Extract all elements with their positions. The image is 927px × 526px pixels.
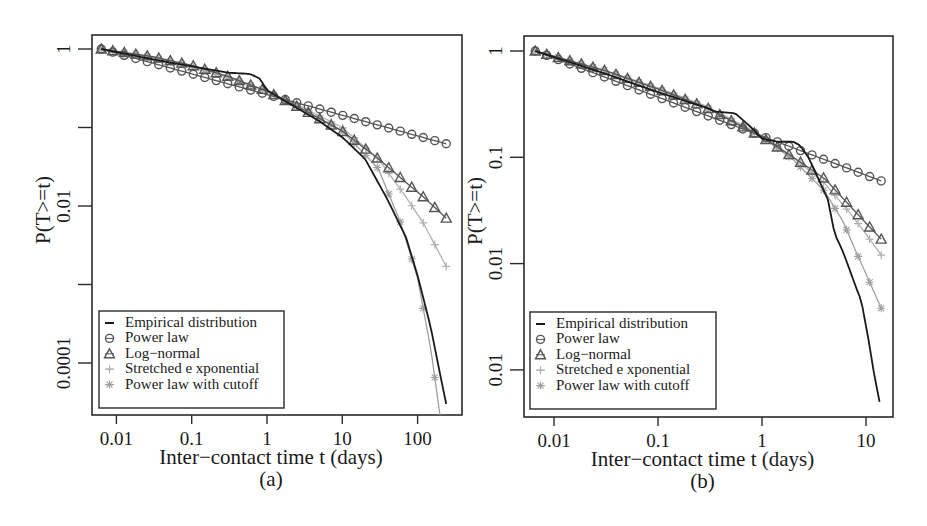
plus-marker-icon bbox=[419, 219, 427, 227]
y-tick-label: 0.0001 bbox=[53, 337, 74, 389]
legend-label: Log−normal bbox=[556, 346, 631, 362]
series-log-normal bbox=[530, 46, 886, 243]
legend-item: Empirical distribution bbox=[536, 315, 689, 331]
y-axis: 10.10.010.01 bbox=[485, 46, 524, 386]
asterisk-marker-icon bbox=[537, 382, 545, 390]
y-tick-label: 1 bbox=[485, 46, 506, 56]
legend-item: Power law with cutoff bbox=[536, 377, 689, 393]
chart-panel-a: 0.010.111010010.010.0001Inter−contact ti… bbox=[31, 35, 462, 491]
legend-label: Empirical distribution bbox=[125, 314, 258, 330]
series-power-law-with-cutoff bbox=[531, 47, 885, 312]
series-line bbox=[535, 51, 881, 255]
y-tick-label: 0.01 bbox=[485, 247, 506, 280]
y-tick-label: 0.01 bbox=[53, 189, 74, 222]
x-axis: 0.010.1110100 bbox=[100, 415, 432, 449]
asterisk-marker-icon bbox=[431, 373, 439, 381]
series-stretched-e-xponential bbox=[97, 45, 450, 270]
legend-label: Stretched e xponential bbox=[556, 361, 690, 377]
series-line bbox=[101, 49, 446, 144]
legend-label: Power law with cutoff bbox=[125, 376, 258, 392]
legend: Empirical distributionPower lawLog−norma… bbox=[530, 312, 716, 409]
series-log-normal bbox=[96, 44, 451, 222]
y-axis-title: P(T>=t) bbox=[463, 177, 487, 245]
series-line bbox=[535, 51, 881, 308]
legend-label: Empirical distribution bbox=[556, 315, 689, 331]
x-tick-label: 0.01 bbox=[100, 428, 133, 449]
legend-label: Power law with cutoff bbox=[556, 377, 689, 393]
x-axis-title: Inter−contact time t (days) bbox=[591, 447, 815, 471]
y-tick-label: 0.1 bbox=[485, 145, 506, 169]
series-line bbox=[101, 49, 446, 266]
legend: Empirical distributionPower lawLog−norma… bbox=[99, 311, 284, 408]
legend-item: Empirical distribution bbox=[105, 314, 258, 330]
asterisk-marker-icon bbox=[106, 381, 114, 389]
asterisk-marker-icon bbox=[843, 226, 851, 234]
asterisk-marker-icon bbox=[866, 278, 874, 286]
chart-panel-b: 0.010.111010.10.010.01Inter−contact time… bbox=[463, 36, 893, 493]
x-tick-label: 100 bbox=[403, 428, 432, 449]
legend-item: Stretched e xponential bbox=[536, 361, 690, 377]
panel-caption: (b) bbox=[690, 469, 715, 493]
series-stretched-e-xponential bbox=[531, 47, 885, 259]
plus-marker-icon bbox=[442, 262, 450, 270]
legend-label: Power law bbox=[125, 329, 189, 345]
x-tick-label: 10 bbox=[857, 430, 876, 451]
y-tick-label: 1 bbox=[53, 44, 74, 54]
asterisk-marker-icon bbox=[877, 304, 885, 312]
y-axis: 10.010.0001 bbox=[53, 44, 92, 389]
legend-label: Log−normal bbox=[125, 345, 200, 361]
x-axis-title: Inter−contact time t (days) bbox=[159, 445, 383, 469]
asterisk-marker-icon bbox=[831, 204, 839, 212]
legend-item: Power law with cutoff bbox=[105, 376, 258, 392]
asterisk-marker-icon bbox=[373, 164, 381, 172]
x-tick-label: 0.01 bbox=[537, 430, 570, 451]
y-tick-label: 0.01 bbox=[485, 353, 506, 386]
panel-caption: (a) bbox=[259, 467, 282, 491]
x-axis: 0.010.1110 bbox=[537, 417, 875, 451]
asterisk-marker-icon bbox=[854, 252, 862, 260]
plus-marker-icon bbox=[431, 241, 439, 249]
series-line bbox=[535, 51, 881, 181]
legend-label: Power law bbox=[556, 330, 620, 346]
legend-label: Stretched e xponential bbox=[125, 360, 259, 376]
figure-canvas: 0.010.111010010.010.0001Inter−contact ti… bbox=[0, 0, 927, 526]
plus-marker-icon bbox=[408, 202, 416, 210]
y-axis-title: P(T>=t) bbox=[31, 176, 55, 244]
legend-item: Stretched e xponential bbox=[105, 360, 259, 376]
series-line bbox=[101, 49, 446, 218]
